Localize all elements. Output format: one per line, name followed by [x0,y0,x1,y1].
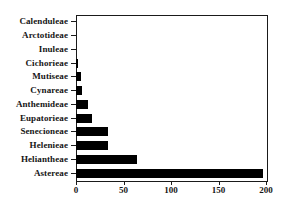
bar-row [76,70,266,84]
y-axis-tick-row: Mutiseae [0,70,76,84]
bar [76,141,108,150]
bar [76,86,82,95]
bar-row [76,166,266,180]
bar-row [76,56,266,70]
x-axis-ticks: 050100150200 [76,181,267,205]
bar-row [76,98,266,112]
y-axis-tick-row: Eupatorieae [0,111,76,125]
y-axis-tick-label: Cichorieae [26,59,68,68]
bar-row [76,153,266,167]
bar-row [76,84,266,98]
bar [76,127,108,136]
y-axis-tick-label: Anthemideae [16,100,68,109]
y-axis-tick-row: Anthemideae [0,98,76,112]
y-axis-tick-row: Heliantheae [0,153,76,167]
x-axis-tick-label: 150 [212,186,226,195]
bar [76,72,81,81]
y-axis-tick-row: Astereae [0,166,76,180]
y-axis-tick-row: Cynareae [0,84,76,98]
bar [76,169,263,178]
y-axis-tick-row: Arctotideae [0,29,76,43]
y-axis-tick-label: Cynareae [30,86,68,95]
y-axis-tick-row: Inuleae [0,43,76,57]
bar [76,100,88,109]
y-axis-tick-label: Calenduleae [19,17,68,26]
y-axis-tick-label: Arctotideae [22,31,68,40]
y-axis-tick-label: Helenieae [30,141,68,150]
y-axis-tick-label: Senecioneae [20,127,68,136]
bar-row [76,111,266,125]
bar-row [76,43,266,57]
y-axis-tick-label: Eupatorieae [20,114,68,123]
bar-row [76,15,266,29]
y-axis-tick-row: Cichorieae [0,56,76,70]
y-axis-tick-label: Heliantheae [21,155,68,164]
y-axis-tick-row: Calenduleae [0,15,76,29]
x-axis-tick-label: 200 [259,186,273,195]
x-axis-tick-label: 0 [74,186,79,195]
bar-row [76,29,266,43]
bar [76,114,92,123]
bars-layer [76,15,266,180]
y-axis-category-labels: CalenduleaeArctotideaeInuleaeCichorieaeM… [0,15,76,180]
x-axis-tick-label: 50 [119,186,128,195]
y-axis-tick-row: Helenieae [0,139,76,153]
x-axis-tick-label: 100 [164,186,178,195]
bar [76,155,137,164]
y-axis-tick-row: Senecioneae [0,125,76,139]
bar-chart-figure: CalenduleaeArctotideaeInuleaeCichorieaeM… [0,0,286,205]
bar-row [76,125,266,139]
bar [76,59,78,68]
y-axis-tick-label: Astereae [34,169,68,178]
y-axis-tick-label: Mutiseae [32,72,68,81]
bar-row [76,139,266,153]
y-axis-tick-label: Inuleae [39,45,68,54]
